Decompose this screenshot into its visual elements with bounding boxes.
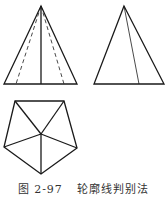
- right-triangle-view: [94, 6, 164, 84]
- figure-title: 轮廓线判别法: [77, 183, 149, 196]
- figure-caption: 图 2-97 轮廓线判别法: [0, 180, 167, 196]
- pentagon-edge-3: [41, 134, 77, 148]
- pentagon-top-view: [4, 101, 77, 174]
- pentagon-edge-1: [15, 101, 41, 134]
- diagram-canvas: [0, 0, 167, 180]
- right-triangle-inner-line: [124, 6, 139, 84]
- right-triangle-outline: [94, 6, 164, 84]
- pentagon-edge-2: [41, 101, 64, 134]
- pentagon-edge-5: [4, 134, 41, 147]
- figure-number: 图 2-97: [18, 183, 63, 196]
- left-triangle-hidden-line-right: [41, 6, 64, 84]
- left-triangle-view: [4, 6, 77, 84]
- left-triangle-hidden-line-left: [16, 6, 41, 84]
